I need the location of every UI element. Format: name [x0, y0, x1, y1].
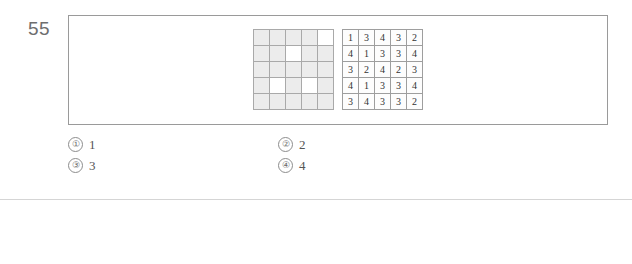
number-cell: 2 — [391, 62, 407, 78]
number-cell: 4 — [359, 94, 375, 110]
number-cell: 3 — [391, 94, 407, 110]
choice-marker-icon: ④ — [278, 158, 293, 173]
number-cell: 3 — [375, 94, 391, 110]
number-cell: 3 — [343, 94, 359, 110]
pattern-cell-shaded — [254, 46, 270, 62]
number-cell: 2 — [359, 62, 375, 78]
number-cell: 3 — [391, 30, 407, 46]
choice-label: 1 — [89, 137, 96, 153]
number-cell: 1 — [359, 78, 375, 94]
solution-strip: ✔ 해설 2313 1323 1333 1212 — [0, 188, 632, 264]
pattern-cell-shaded — [270, 46, 286, 62]
pattern-cell-shaded — [270, 30, 286, 46]
pattern-cell-shaded — [254, 62, 270, 78]
choice-option-2[interactable]: ② 2 — [278, 137, 306, 153]
number-cell: 3 — [407, 62, 423, 78]
choice-option-3[interactable]: ③ 3 — [68, 158, 278, 174]
number-cell: 2 — [407, 30, 423, 46]
number-cell: 4 — [375, 30, 391, 46]
pattern-cell-shaded — [270, 94, 286, 110]
pattern-cell-blank — [318, 30, 334, 46]
number-cell: 3 — [391, 46, 407, 62]
pattern-cell-shaded — [302, 30, 318, 46]
figure-row: 1343241334324234133434332 — [253, 29, 423, 110]
pattern-cell-shaded — [318, 46, 334, 62]
choice-label: 3 — [89, 158, 96, 174]
number-cell: 3 — [375, 46, 391, 62]
pattern-cell-shaded — [286, 78, 302, 94]
number-cell: 3 — [391, 78, 407, 94]
choice-marker-icon: ② — [278, 137, 293, 152]
pattern-cell-shaded — [254, 78, 270, 94]
choice-label: 2 — [299, 137, 306, 153]
number-cell: 4 — [343, 46, 359, 62]
pattern-cell-shaded — [286, 30, 302, 46]
choice-marker-icon: ③ — [68, 158, 83, 173]
pattern-cell-shaded — [318, 94, 334, 110]
pattern-grid — [253, 29, 334, 110]
pattern-cell-shaded — [270, 62, 286, 78]
number-cell: 1 — [359, 46, 375, 62]
number-cell: 1 — [343, 30, 359, 46]
pattern-cell-shaded — [302, 94, 318, 110]
number-cell: 4 — [407, 78, 423, 94]
choice-row: ① 1 ② 2 — [68, 134, 468, 155]
choice-label: 4 — [299, 158, 306, 174]
number-grid: 1343241334324234133434332 — [342, 29, 423, 110]
choice-option-4[interactable]: ④ 4 — [278, 158, 306, 174]
pattern-cell-shaded — [318, 78, 334, 94]
question-box: 1343241334324234133434332 — [68, 15, 608, 125]
pattern-cell-shaded — [254, 94, 270, 110]
pattern-cell-shaded — [254, 30, 270, 46]
pattern-cell-blank — [270, 78, 286, 94]
number-cell: 4 — [375, 62, 391, 78]
question-number: 55 — [28, 18, 50, 40]
answer-choices: ① 1 ② 2 ③ 3 ④ 4 — [68, 134, 468, 176]
choice-row: ③ 3 ④ 4 — [68, 155, 468, 176]
choice-marker-icon: ① — [68, 137, 83, 152]
number-cell: 3 — [359, 30, 375, 46]
number-cell: 2 — [407, 94, 423, 110]
number-cell: 3 — [343, 62, 359, 78]
pattern-cell-shaded — [286, 62, 302, 78]
number-cell: 3 — [375, 78, 391, 94]
pattern-cell-blank — [302, 78, 318, 94]
pattern-cell-blank — [286, 46, 302, 62]
pattern-cell-shaded — [318, 62, 334, 78]
pattern-cell-shaded — [302, 62, 318, 78]
number-cell: 4 — [343, 78, 359, 94]
pattern-cell-shaded — [302, 46, 318, 62]
choice-option-1[interactable]: ① 1 — [68, 137, 278, 153]
pattern-cell-shaded — [286, 94, 302, 110]
number-cell: 4 — [407, 46, 423, 62]
